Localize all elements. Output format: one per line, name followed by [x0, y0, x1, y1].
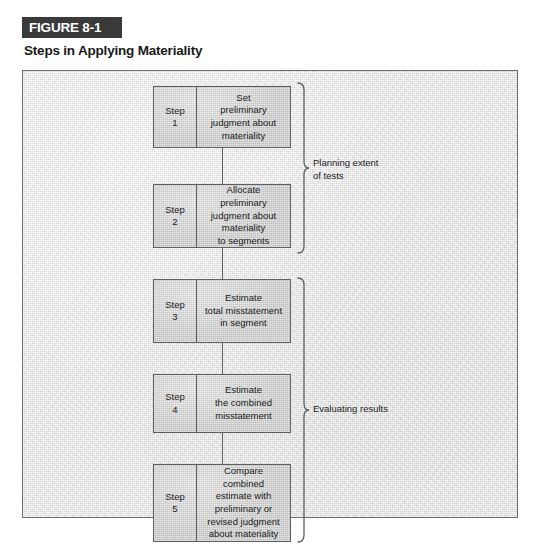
connector-step2-step3: [222, 248, 223, 279]
step-desc-line: Allocate: [227, 184, 261, 197]
figure-title: Steps in Applying Materiality: [24, 43, 202, 58]
step-desc-line: preliminary: [220, 197, 266, 210]
step-value-4: 4: [172, 404, 177, 416]
step-desc-line: to segments: [218, 235, 270, 248]
step-desc-line: total misstatement: [205, 305, 282, 318]
step-description-2: Allocate preliminary judgment about mate…: [197, 185, 290, 247]
step-desc-line: Estimate: [225, 292, 262, 305]
figure-label-badge: FIGURE 8-1: [22, 17, 122, 38]
bracket-planning-label: Planning extent of tests: [313, 157, 379, 183]
step-box-1[interactable]: Step 1 Set preliminary judgment about ma…: [153, 86, 291, 148]
step-desc-line: combined: [223, 478, 264, 491]
step-label-5: Step: [165, 491, 185, 503]
step-box-2[interactable]: Step 2 Allocate preliminary judgment abo…: [153, 184, 291, 248]
step-desc-line: materiality: [222, 130, 265, 143]
step-desc-line: in segment: [220, 317, 266, 330]
step-label-2: Step: [165, 204, 185, 216]
step-value-1: 1: [172, 117, 177, 129]
step-number-cell-4: Step 4: [154, 375, 197, 432]
bracket-label-line: Evaluating results: [313, 403, 388, 416]
step-box-5[interactable]: Step 5 Compare combined estimate with pr…: [153, 464, 291, 542]
step-number-cell-5: Step 5: [154, 465, 197, 541]
step-desc-line: revised judgment: [207, 516, 279, 529]
step-desc-line: materiality: [222, 222, 265, 235]
step-desc-line: preliminary or: [215, 503, 273, 516]
step-number-cell-2: Step 2: [154, 185, 197, 247]
bracket-evaluating-shape: [295, 276, 311, 544]
step-label-1: Step: [165, 105, 185, 117]
connector-step3-step4: [222, 343, 223, 374]
step-desc-line: misstatement: [215, 410, 272, 423]
step-value-5: 5: [172, 503, 177, 515]
step-desc-line: Set: [236, 92, 250, 105]
step-desc-line: estimate with: [216, 490, 271, 503]
connector-step1-step2: [222, 148, 223, 184]
step-label-4: Step: [165, 391, 185, 403]
step-description-1: Set preliminary judgment about materiali…: [197, 87, 290, 147]
diagram-panel: Step 1 Set preliminary judgment about ma…: [22, 70, 518, 518]
bracket-planning-shape: [295, 81, 311, 255]
bracket-evaluating: [295, 276, 311, 544]
connector-step4-step5: [222, 433, 223, 464]
step-desc-line: judgment about: [211, 117, 277, 130]
step-description-4: Estimate the combined misstatement: [197, 375, 290, 432]
flowchart: Step 1 Set preliminary judgment about ma…: [23, 71, 517, 517]
step-value-2: 2: [172, 216, 177, 228]
bracket-label-line: Planning extent: [313, 157, 379, 170]
step-desc-line: judgment about: [211, 210, 277, 223]
step-desc-line: Compare: [224, 465, 263, 478]
figure-label-text: FIGURE 8-1: [29, 21, 101, 35]
step-value-3: 3: [172, 311, 177, 323]
step-box-4[interactable]: Step 4 Estimate the combined misstatemen…: [153, 374, 291, 433]
step-description-5: Compare combined estimate with prelimina…: [197, 465, 290, 541]
step-desc-line: about materiality: [209, 528, 279, 541]
step-desc-line: preliminary: [220, 104, 266, 117]
step-label-3: Step: [165, 299, 185, 311]
step-desc-line: the combined: [215, 397, 272, 410]
step-description-3: Estimate total misstatement in segment: [197, 280, 290, 342]
step-number-cell-1: Step 1: [154, 87, 197, 147]
step-box-3[interactable]: Step 3 Estimate total misstatement in se…: [153, 279, 291, 343]
bracket-planning: [295, 81, 311, 255]
bracket-label-line: of tests: [313, 170, 379, 183]
step-number-cell-3: Step 3: [154, 280, 197, 342]
step-desc-line: Estimate: [225, 384, 262, 397]
bracket-evaluating-label: Evaluating results: [313, 403, 388, 416]
